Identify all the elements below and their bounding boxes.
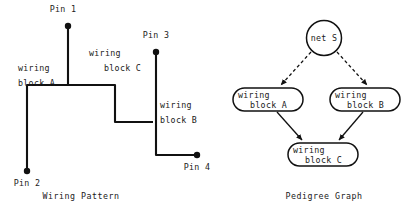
net-s-node: net S <box>307 21 342 56</box>
wiring-block-c-label-line2: block C <box>104 63 141 73</box>
node-wiring-block-c: wiring block C <box>288 143 358 166</box>
wiring-block-b-label-line1: wiring <box>160 100 192 110</box>
pin-3-dot <box>153 49 159 55</box>
node-wiring-block-b: wiring block B <box>330 88 400 111</box>
pin-1-dot <box>65 23 71 29</box>
wiring-pattern-caption: Wiring Pattern <box>43 191 120 201</box>
wiring-block-a-label-line1: wiring <box>18 63 50 73</box>
pin-4-label: Pin 4 <box>184 162 210 172</box>
pin-2-label: Pin 2 <box>14 178 40 188</box>
node-wiring-block-a-line1: wiring <box>238 90 270 100</box>
wiring-block-b-label-line2: block B <box>160 115 197 125</box>
pin-4-dot <box>194 152 200 158</box>
node-wiring-block-c-line1: wiring <box>293 145 325 155</box>
node-wiring-block-a-line2: block A <box>250 100 287 110</box>
pin-1-label: Pin 1 <box>50 4 76 14</box>
figure-root: Pin 1 Pin 2 Pin 3 Pin 4 wiring block A w… <box>0 0 417 219</box>
wiring-block-c-label-line1: wiring <box>89 48 121 58</box>
pedigree-graph-caption: Pedigree Graph <box>286 191 363 201</box>
net-s-label: net S <box>311 33 337 43</box>
wiring-block-a-label-line2: block A <box>18 78 55 88</box>
node-wiring-block-c-line2: block C <box>305 155 342 165</box>
node-wiring-block-b-line2: block B <box>347 100 384 110</box>
pin-2-dot <box>24 168 30 174</box>
node-wiring-block-a: wiring block A <box>233 88 303 111</box>
pin-3-label: Pin 3 <box>143 30 169 40</box>
node-wiring-block-b-line1: wiring <box>335 90 367 100</box>
